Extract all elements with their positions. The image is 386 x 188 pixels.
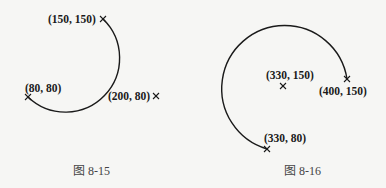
point-label: (200, 80) (108, 91, 150, 103)
arc-8-15 (28, 19, 120, 112)
figure-caption: 图 8-15 (73, 165, 110, 177)
point-label: (330, 80) (264, 133, 306, 145)
point-label: (150, 150) (48, 14, 96, 26)
point-label: (80, 80) (25, 83, 61, 95)
figure-caption: 图 8-16 (284, 165, 321, 177)
cross-marker-150-150 (100, 16, 106, 22)
cross-marker-80-80 (25, 94, 31, 100)
point-label: (330, 150) (266, 70, 314, 82)
cross-marker-330-150 (280, 83, 286, 89)
point-label: (400, 150) (319, 86, 367, 98)
cross-marker-200-80 (153, 93, 159, 99)
